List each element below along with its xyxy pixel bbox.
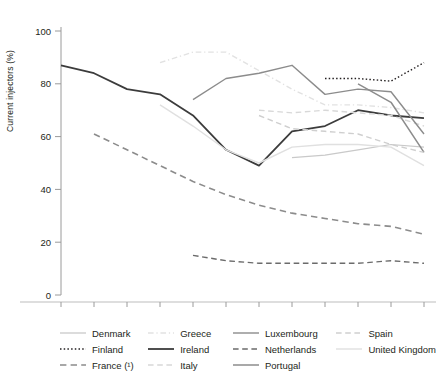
legend-column: DenmarkFinlandFrance (¹) <box>60 326 148 372</box>
series-line-denmark <box>292 145 424 158</box>
x-tick-label: 1996 <box>248 310 269 312</box>
legend-label: Greece <box>180 328 211 339</box>
legend-label: Italy <box>180 360 197 371</box>
chart-legend: DenmarkFinlandFrance (¹)GreeceIrelandIta… <box>0 326 436 378</box>
series-line-france <box>94 134 424 234</box>
legend-column: GreeceIrelandItaly <box>148 326 233 372</box>
series-line-spain <box>259 115 424 152</box>
legend-column: LuxembourgNetherlandsPortugal <box>233 326 336 372</box>
legend-item[interactable]: Denmark <box>60 326 148 340</box>
legend-label: Denmark <box>92 328 131 339</box>
legend-columns: DenmarkFinlandFrance (¹)GreeceIrelandIta… <box>0 326 436 372</box>
legend-swatch-greece <box>148 328 174 338</box>
y-tick-label: 40 <box>40 184 51 195</box>
legend-item[interactable]: Luxembourg <box>233 326 336 340</box>
legend-item[interactable]: Ireland <box>148 342 233 356</box>
legend-swatch-spain <box>336 328 362 338</box>
legend-label: Netherlands <box>265 344 316 355</box>
series-line-finland <box>325 63 424 81</box>
x-tick-label: 1994 <box>182 310 203 312</box>
legend-swatch-italy <box>148 360 174 370</box>
y-tick-label: 0 <box>46 290 51 301</box>
series-line-greece <box>160 52 424 113</box>
line-chart-svg: 0204060801001990199119921993199419951996… <box>0 0 436 312</box>
x-tick-label: 1995 <box>215 310 236 312</box>
legend-label: United Kingdom <box>368 344 436 355</box>
y-axis-label: Current injectors (%) <box>5 83 15 99</box>
legend-column: SpainUnited Kingdom <box>336 326 436 372</box>
legend-item[interactable]: Finland <box>60 342 148 356</box>
series-line-ireland <box>61 65 424 165</box>
legend-label: Spain <box>368 328 392 339</box>
x-tick-label: 1997 <box>281 310 302 312</box>
x-tick-label: 1992 <box>116 310 137 312</box>
legend-swatch-finland <box>60 344 86 354</box>
legend-item[interactable]: Portugal <box>233 358 336 372</box>
legend-label: Portugal <box>265 360 300 371</box>
plot-area: 0204060801001990199119921993199419951996… <box>0 0 436 310</box>
series-line-luxembourg <box>193 65 424 134</box>
legend-label: France (¹) <box>92 360 134 371</box>
legend-swatch-france <box>60 360 86 370</box>
y-axis-label-text: Current injectors (%) <box>5 21 15 161</box>
legend-item[interactable]: Spain <box>336 326 436 340</box>
y-tick-label: 80 <box>40 78 51 89</box>
y-tick-label: 100 <box>35 26 51 37</box>
legend-swatch-portugal <box>233 360 259 370</box>
x-tick-label: 2000 <box>380 310 401 312</box>
x-tick-label: 1990 <box>50 310 71 312</box>
legend-swatch-luxembourg <box>233 328 259 338</box>
chart-container: 0204060801001990199119921993199419951996… <box>0 0 436 389</box>
x-tick-label: 2001 <box>413 310 434 312</box>
legend-label: Luxembourg <box>265 328 318 339</box>
legend-label: Finland <box>92 344 123 355</box>
legend-label: Ireland <box>180 344 209 355</box>
y-tick-label: 60 <box>40 131 51 142</box>
x-tick-label: 1991 <box>83 310 104 312</box>
legend-item[interactable]: Netherlands <box>233 342 336 356</box>
legend-item[interactable]: Italy <box>148 358 233 372</box>
series-line-netherlands <box>193 255 424 263</box>
legend-item[interactable]: Greece <box>148 326 233 340</box>
x-tick-label: 1998 <box>314 310 335 312</box>
legend-swatch-denmark <box>60 328 86 338</box>
legend-swatch-united-kingdom <box>336 344 362 354</box>
legend-swatch-netherlands <box>233 344 259 354</box>
x-tick-label: 1999 <box>347 310 368 312</box>
x-tick-label: 1993 <box>149 310 170 312</box>
y-tick-label: 20 <box>40 237 51 248</box>
legend-item[interactable]: United Kingdom <box>336 342 436 356</box>
legend-item[interactable]: France (¹) <box>60 358 148 372</box>
legend-swatch-ireland <box>148 344 174 354</box>
